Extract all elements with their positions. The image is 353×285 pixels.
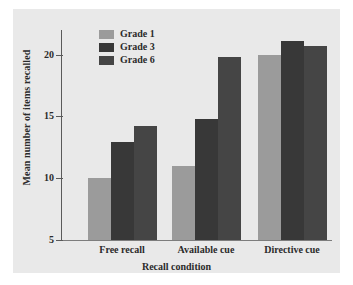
bar-grade-6[interactable] (304, 46, 327, 240)
legend-item[interactable]: Grade 6 (99, 54, 155, 66)
y-tick-label: 5 (14, 235, 54, 245)
x-axis-line (61, 240, 332, 241)
legend-label: Grade 6 (120, 55, 155, 65)
y-tick-label: 20 (14, 50, 54, 60)
legend-item[interactable]: Grade 1 (99, 28, 155, 40)
bar-grade-6[interactable] (218, 57, 241, 240)
x-tick-label: Directive cue (232, 244, 352, 255)
x-axis-title: Recall condition (0, 261, 353, 272)
legend-swatch-icon (99, 43, 114, 52)
legend-label: Grade 1 (120, 29, 155, 39)
y-tick-label: 15 (14, 111, 54, 121)
bar-grade-3[interactable] (111, 142, 134, 240)
y-tick-label: 10 (14, 173, 54, 183)
bar-grade-6[interactable] (134, 126, 157, 240)
legend-swatch-icon (99, 30, 114, 39)
legend-swatch-icon (99, 56, 114, 65)
y-tick-mark (56, 240, 63, 241)
bar-grade-1[interactable] (258, 55, 281, 240)
chart-legend: Grade 1Grade 3Grade 6 (99, 28, 155, 67)
bar-grade-3[interactable] (281, 41, 304, 240)
bar-grade-1[interactable] (88, 178, 111, 240)
bar-grade-3[interactable] (195, 119, 218, 240)
chart-figure: Mean number of items recalled 2015105 Fr… (0, 0, 353, 285)
legend-item[interactable]: Grade 3 (99, 41, 155, 53)
bar-grade-1[interactable] (172, 166, 195, 240)
legend-label: Grade 3 (120, 42, 155, 52)
